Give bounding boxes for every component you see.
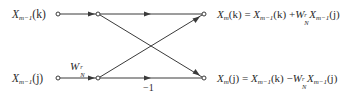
subscript: m−1 (314, 78, 327, 86)
arrow-icon (193, 17, 201, 24)
operator: + (286, 8, 295, 20)
subscript: N (80, 72, 84, 79)
arrow-icon (193, 69, 201, 76)
node-output-bottom (202, 76, 206, 80)
output-equation-bottom: Xm(j) = Xm−1(k) −WrNXm−1(j) (217, 73, 337, 86)
node-input-top (56, 12, 60, 16)
arrow-icon (144, 76, 151, 81)
symbol: X (307, 72, 314, 84)
symbol: W (295, 8, 304, 20)
equals-sign: = (239, 72, 251, 84)
subscript: m−1 (19, 14, 32, 22)
symbol: X (12, 72, 19, 84)
twiddle-label: WrN (70, 61, 85, 72)
equals-sign: = (242, 8, 254, 20)
symbol: X (217, 72, 224, 84)
subscript: N (302, 84, 306, 91)
node-input-bottom (56, 76, 60, 80)
symbol: X (251, 72, 258, 84)
symbol: X (12, 8, 19, 20)
arrow-icon (144, 12, 151, 17)
superscript: r (302, 76, 305, 83)
argument: (k) (32, 8, 45, 20)
input-label-bottom: Xm−1(j) (12, 73, 43, 86)
argument: (j) (229, 72, 239, 84)
arrow-icon (88, 76, 95, 81)
input-label-top: Xm−1(k) (12, 9, 46, 22)
subscript: N (304, 20, 308, 27)
subscript: m−1 (19, 78, 32, 86)
argument: (k) (273, 8, 286, 20)
node-output-top (202, 12, 206, 16)
argument: (j) (327, 72, 337, 84)
output-equation-top: Xm(k) = Xm−1(k) +WrNXm−1(j) (217, 9, 340, 22)
argument: (j) (32, 72, 43, 84)
symbol: X (217, 8, 224, 20)
symbol: W (293, 72, 302, 84)
subscript: m−1 (258, 78, 271, 86)
argument: (k) (271, 72, 284, 84)
node-mid-bottom (96, 76, 100, 80)
subscript: m−1 (260, 14, 273, 22)
superscript: r (304, 12, 307, 19)
node-mid-top (96, 12, 100, 16)
arrow-icon (88, 12, 95, 17)
operator: − (284, 72, 293, 84)
symbol: W (70, 60, 79, 72)
argument: (k) (229, 8, 242, 20)
superscript: r (80, 64, 83, 71)
subscript: m−1 (316, 14, 329, 22)
branch-gain-label: −1 (143, 83, 154, 93)
argument: (j) (329, 8, 339, 20)
